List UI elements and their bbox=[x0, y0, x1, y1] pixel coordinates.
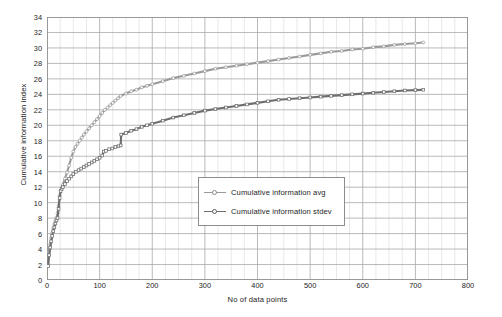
y-tick-label: 34 bbox=[16, 13, 42, 22]
legend-item-avg: Cumulative information avg bbox=[204, 183, 344, 202]
y-tick-label: 30 bbox=[16, 43, 42, 52]
x-tick-label: 200 bbox=[132, 281, 172, 290]
y-tick-label: 20 bbox=[16, 121, 42, 130]
y-tick-label: 28 bbox=[16, 59, 42, 68]
y-tick-label: 12 bbox=[16, 183, 42, 192]
x-tick-label: 400 bbox=[238, 281, 278, 290]
y-tick-label: 16 bbox=[16, 152, 42, 161]
y-tick-label: 4 bbox=[16, 245, 42, 254]
y-tick-label: 2 bbox=[16, 260, 42, 269]
y-tick-label: 32 bbox=[16, 28, 42, 37]
x-axis-title: No of data points bbox=[47, 295, 468, 304]
x-tick-label: 700 bbox=[395, 281, 435, 290]
x-tick-label: 300 bbox=[185, 281, 225, 290]
y-axis-tick-labels: 0246810121416182022242628303234 bbox=[12, 0, 42, 317]
legend-marker-avg-icon bbox=[204, 188, 226, 197]
y-tick-label: 22 bbox=[16, 105, 42, 114]
legend-label-stdev: Cumulative information stdev bbox=[231, 207, 332, 216]
x-axis-tick-labels: 0100200300400500600700800 bbox=[0, 281, 502, 295]
legend-label-avg: Cumulative information avg bbox=[231, 188, 326, 197]
x-tick-label: 800 bbox=[448, 281, 488, 290]
legend-marker-stdev-icon bbox=[204, 207, 226, 216]
x-tick-label: 0 bbox=[27, 281, 67, 290]
x-tick-label: 600 bbox=[343, 281, 383, 290]
y-tick-label: 10 bbox=[16, 198, 42, 207]
x-tick-label: 500 bbox=[290, 281, 330, 290]
chart-figure: Cumulative information index 02468101214… bbox=[0, 0, 502, 317]
y-tick-label: 14 bbox=[16, 167, 42, 176]
legend-item-stdev: Cumulative information stdev bbox=[204, 202, 344, 221]
y-tick-label: 18 bbox=[16, 136, 42, 145]
y-tick-label: 8 bbox=[16, 214, 42, 223]
y-tick-label: 24 bbox=[16, 90, 42, 99]
chart-legend: Cumulative information avg Cumulative in… bbox=[198, 177, 345, 226]
x-tick-label: 100 bbox=[80, 281, 120, 290]
y-tick-label: 26 bbox=[16, 74, 42, 83]
plot-area bbox=[47, 17, 468, 280]
y-tick-label: 6 bbox=[16, 229, 42, 238]
plot-svg bbox=[47, 17, 468, 280]
